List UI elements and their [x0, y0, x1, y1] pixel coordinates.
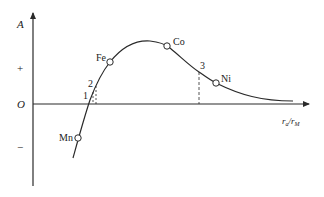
svg-text:ra/rM: ra/rM [282, 116, 301, 127]
y-axis-label: A [16, 18, 24, 30]
origin-label: O [17, 98, 25, 110]
plus-sign-label: + [17, 62, 23, 74]
marker-1-label: 1 [83, 90, 88, 101]
diagram-canvas: A + O − ra/rM Mn Fe Co Ni 1 2 3 [0, 0, 324, 197]
co-point [164, 43, 170, 49]
fe-label: Fe [96, 52, 107, 63]
ni-point [213, 80, 219, 86]
mn-label: Mn [59, 132, 73, 143]
ni-label: Ni [221, 73, 231, 84]
marker-3-label: 3 [200, 60, 205, 71]
co-label: Co [173, 36, 185, 47]
exchange-integral-curve [73, 41, 293, 158]
x-axis-label: ra/rM [282, 116, 301, 127]
marker-2-label: 2 [88, 78, 93, 89]
mn-point [75, 135, 81, 141]
fe-point [107, 59, 113, 65]
minus-sign-label: − [17, 141, 23, 153]
x-label-sub-m: M [294, 121, 301, 127]
